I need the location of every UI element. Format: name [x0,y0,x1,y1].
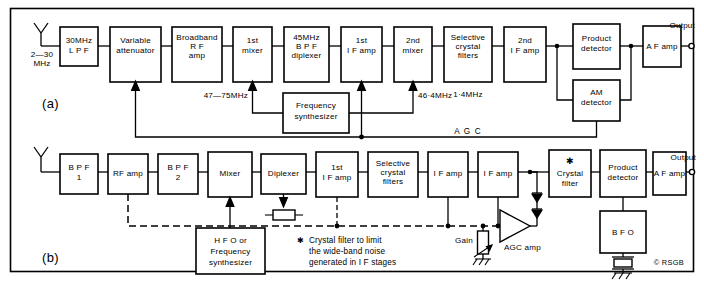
input-range-line2: MHz [33,59,50,68]
output-label-a: Output [670,21,696,30]
block-a-synth-line1: Frequency [296,101,337,110]
block-b-hfo-line3: synthesizer [209,258,252,267]
block-b-mixer-line1: Mixer [220,169,241,178]
block-b-diplexer-line1: Diplexer [268,169,299,178]
block-b-proddet-line2: detector [608,173,639,182]
block-a-lpf-line1: 30MHz [66,36,93,45]
block-a-rfamp-line3: amp [189,51,206,60]
block-a-bpf-line2: B P F [296,42,317,51]
block-b-bpf1-line2: 1 [77,173,82,182]
annotation-a-lo2-freq: 46·4MHz [418,91,452,100]
block-a-afamp-line1: A F amp [646,42,678,51]
block-b-crystal-filter-star: ✱ [566,156,574,166]
block-a-proddet-line2: detector [581,44,612,53]
block-b-crystal-filters-line2: crystal [381,168,406,177]
panel-label-a: (a) [42,96,59,111]
output-terminal-b [689,169,694,174]
block-a-rfamp-line1: Broadband [176,33,217,42]
block-a-ifamp2-line1: 2nd [518,36,532,45]
agc-amp-label: AGC amp [504,243,541,252]
wire-a-ifamp2-amdet [557,46,573,100]
block-b-ifamp2-line1: I F amp [434,169,463,178]
block-a-lpf-line2: L P F [69,46,89,55]
antenna-a-icon [34,23,60,46]
output-label-b: Output [671,153,697,162]
block-b-bfo-line1: B F O [612,228,634,237]
block-a-mixer1-line2: mixer [242,46,263,55]
panel-label-b: (b) [42,250,59,265]
gain-label: Gain [455,236,473,245]
block-a-amdet-line1: AM [590,88,603,97]
block-a-ifamp2-line2: I F amp [511,46,540,55]
block-a-amdet-line2: detector [581,98,612,107]
footnote-line1: Crystal filter to limit [309,236,382,245]
block-b-ifamp3-line1: I F amp [484,169,513,178]
block-a-crystal-filters-line3: filters [458,51,479,60]
annotation-a-if2-freq: 1·4MHz [453,90,483,99]
block-a-crystal-filters-line2: crystal [456,42,481,51]
antenna-b-icon [34,147,60,172]
agc-diode-symbols [530,172,542,226]
block-b-crystal-filter-line2: Crystal [557,169,584,178]
block-a-ifamp1-line1: 1st [356,36,368,45]
block-a-synth-line2: synthesizer [294,112,337,121]
block-b-rfamp-line1: RF amp [113,169,143,178]
gain-potentiometer-symbol [473,226,492,265]
block-b-crystal-filters-line1: Selective [376,159,411,168]
block-a-attenuator-line2: attenuator [116,46,155,55]
block-a-bpf-line1: 45MHz [293,33,320,42]
block-a-ifamp1-line2: I F amp [347,46,376,55]
block-b-crystal-filters-line3: filters [383,177,404,186]
diagram-canvas: 2—30 MHz 30MHz L P F Variable attenuator… [0,0,704,284]
agc-amp-symbol [500,210,537,242]
wire-a-amdet-afamp [620,46,631,100]
agc-bus-a [132,81,597,139]
block-a-rfamp-line2: R F [190,42,204,51]
block-b-ifamp1-line1: 1st [331,163,343,172]
block-b-proddet-line1: Product [608,163,638,172]
footnote-line3: generated in I F stages [309,258,396,267]
block-a-mixer2-line1: 2nd [406,36,420,45]
output-terminal-a [689,43,694,48]
input-range-line1: 2—30 [31,50,54,59]
block-b-afamp-line1: A F amp [654,169,686,178]
block-b-bpf2-line1: B P F [167,163,188,172]
block-b-hfo-line1: H F O or [214,236,247,245]
block-a-mixer1-line1: 1st [247,36,259,45]
block-a-crystal-filters-line1: Selective [451,33,486,42]
receiver-block-diagram-figure: 2—30 MHz 30MHz L P F Variable attenuator… [0,0,704,284]
block-b-hfo-line2: Frequency [210,247,251,256]
block-b-bpf2-line2: 2 [176,173,181,182]
agc-label-a: A G C [454,127,481,136]
footnote-marker: ✱ [297,236,304,245]
agc-dashed-bus-b [128,194,503,228]
block-a-proddet-line1: Product [582,34,612,43]
copyright-notice: © RSGB [654,258,684,267]
footnote-line2: the wide-band noise [309,247,385,256]
annotation-a-lo1-freq: 47—75MHz [204,91,248,100]
block-a-bpf-line3: diplexer [292,51,322,60]
block-b-crystal-filter-line3: filter [562,179,579,188]
wire-a-synth-mixer1 [249,81,283,113]
block-a-attenuator-line1: Variable [120,36,151,45]
bfo-crystal-ground-symbol [612,253,634,279]
wire-b-hfo-mixer [226,197,234,228]
block-a-mixer2-line2: mixer [403,46,424,55]
termination-resistor-symbol [265,194,303,220]
block-b-ifamp1-line2: I F amp [323,173,352,182]
block-b-bpf1-line1: B P F [68,163,89,172]
